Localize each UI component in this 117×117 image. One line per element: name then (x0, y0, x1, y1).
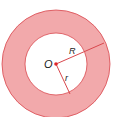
outer-radius-label: R (69, 46, 76, 56)
center-point (54, 62, 58, 66)
center-label: O (44, 58, 53, 70)
annulus-diagram: O R r (0, 0, 117, 117)
